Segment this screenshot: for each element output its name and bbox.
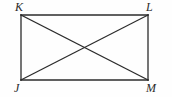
vertex-label-L: L (146, 1, 153, 13)
vertex-label-M: M (146, 82, 156, 94)
vertex-label-K: K (15, 1, 23, 13)
geometry-figure: K L J M (0, 0, 172, 97)
vertex-label-J: J (14, 82, 19, 94)
